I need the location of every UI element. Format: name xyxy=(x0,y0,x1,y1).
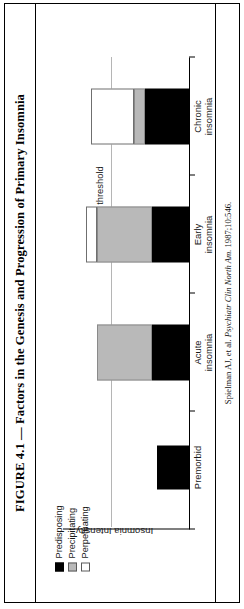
legend-swatch-perpetuating xyxy=(80,563,89,572)
bar-segment-perpetuating xyxy=(85,207,96,263)
bar-segment-predisposing xyxy=(156,446,188,490)
bar-segment-precipitating xyxy=(134,89,145,145)
bar-segment-predisposing xyxy=(152,325,189,381)
figure-source-citation: Spielman AJ, et al. Psychiatr Clin North… xyxy=(223,202,233,404)
bar-segment-precipitating xyxy=(97,207,152,263)
citation-journal: Psychiatr Clin North Am. xyxy=(223,250,233,338)
chart-canvas: Predisposing Precipitating Perpetuating … xyxy=(37,21,215,586)
bar-acute-insomnia xyxy=(97,325,189,381)
axis-tick-4 xyxy=(189,57,195,58)
figure-container: FIGURE 4.1 — Factors in the Genesis and … xyxy=(4,3,240,603)
citation-volume: 1987;10:546. xyxy=(223,202,233,250)
legend-item-predisposing: Predisposing xyxy=(53,505,65,571)
chart-legend: Predisposing Precipitating Perpetuating xyxy=(53,505,92,571)
x-axis-label-early-insomnia: Early insomnia xyxy=(193,192,214,278)
bar-early-insomnia xyxy=(85,207,188,263)
bar-premorbid xyxy=(156,446,188,490)
x-axis-label-premorbid: Premorbid xyxy=(193,425,204,511)
figure-credit-strip: Spielman AJ, et al. Psychiatr Clin North… xyxy=(215,4,239,602)
legend-swatch-precipitating xyxy=(67,563,76,572)
bar-segment-predisposing xyxy=(145,89,189,145)
bar-segment-precipitating xyxy=(97,325,152,381)
citation-author: Spielman AJ, et al. xyxy=(223,337,233,404)
y-axis-label: Insomnia Intensity xyxy=(54,526,174,537)
x-axis-label-acute-insomnia: Acute insomnia xyxy=(193,310,214,396)
chart-area: Predisposing Precipitating Perpetuating … xyxy=(36,4,215,602)
bar-segment-predisposing xyxy=(152,207,189,263)
figure-title-strip: FIGURE 4.1 — Factors in the Genesis and … xyxy=(5,4,36,602)
bar-segment-perpetuating xyxy=(90,89,134,145)
legend-item-precipitating: Precipitating xyxy=(66,505,78,571)
legend-swatch-predisposing xyxy=(54,563,63,572)
axis-tick-3 xyxy=(189,175,195,176)
x-axis-label-chronic-insomnia: Chronic insomnia xyxy=(193,74,214,160)
axis-tick-0 xyxy=(189,529,195,530)
axis-tick-2 xyxy=(189,293,195,294)
bar-chronic-insomnia xyxy=(90,89,189,145)
legend-item-perpetuating: Perpetuating xyxy=(79,505,91,571)
page-title: FIGURE 4.1 — Factors in the Genesis and … xyxy=(13,94,28,512)
axis-tick-1 xyxy=(189,411,195,412)
